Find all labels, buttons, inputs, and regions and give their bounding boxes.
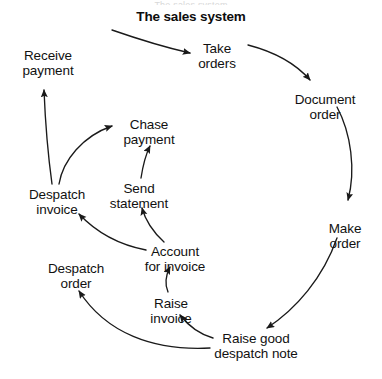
arrow-make-order-to-raise-good-despatch — [267, 238, 337, 328]
node-raise-good-despatch-note: Raise good despatch note — [196, 332, 316, 361]
node-despatch-invoice: Despatch invoice — [15, 188, 99, 217]
node-chase-payment: Chase payment — [113, 118, 185, 147]
arrow-account-for-invoice-to-send-statement — [142, 208, 164, 242]
node-despatch-order: Despatch order — [34, 262, 118, 291]
arrow-despatch-invoice-to-receive-payment — [44, 90, 52, 184]
arrow-despatch-invoice-to-chase-payment — [59, 126, 112, 184]
node-send-statement: Send statement — [97, 182, 181, 211]
arrow-take-orders-to-document-order — [248, 45, 310, 80]
node-raise-invoice: Raise invoice — [141, 297, 201, 326]
node-document-order: Document order — [283, 93, 367, 122]
sales-system-diagram: The sales system The sales system Take o… — [0, 0, 382, 379]
node-take-orders: Take orders — [187, 42, 247, 71]
node-make-order: Make order — [315, 222, 375, 251]
node-account-for-invoice: Account for invoice — [131, 245, 219, 274]
node-receive-payment: Receive payment — [10, 49, 86, 78]
arrow-send-statement-to-chase-payment — [141, 146, 150, 178]
arrow-start-to-take-orders — [112, 30, 190, 53]
